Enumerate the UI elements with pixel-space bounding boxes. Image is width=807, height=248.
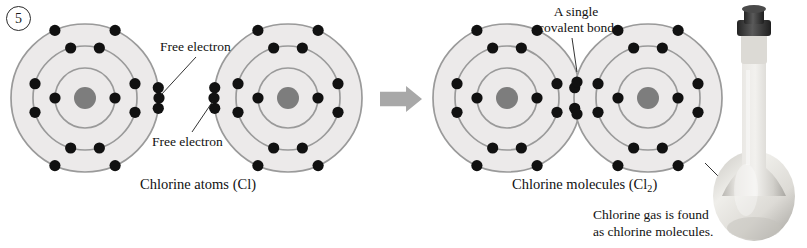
electron-dot-15	[153, 82, 164, 93]
caption-chlorine-molecules: Chlorine molecules (Cl2)	[512, 176, 657, 195]
electron-dot-13	[471, 160, 482, 171]
electron-dot-4	[487, 42, 498, 53]
electron-dot-2	[471, 92, 482, 103]
leader-free-electron-bottom	[192, 101, 213, 132]
electron-dot-3	[516, 42, 527, 53]
electron-dot-10	[551, 107, 562, 118]
electron-dot-5	[65, 142, 76, 153]
label-covalent-bond-line2: covalent bond	[538, 20, 614, 36]
electron-dot-13	[673, 160, 684, 171]
bonding-electron-1	[571, 76, 582, 87]
electron-dot-7	[332, 78, 343, 89]
electron-dot-4	[65, 42, 76, 53]
electron-dot-9	[232, 107, 243, 118]
electron-dot-13	[313, 160, 324, 171]
nucleus	[496, 87, 518, 109]
electron-dot-2	[612, 92, 623, 103]
electron-dot-16	[153, 103, 164, 114]
label-flask-note: Chlorine gas is found as chlorine molecu…	[593, 206, 713, 241]
electron-dot-14	[532, 160, 543, 171]
electron-dot-15	[209, 82, 220, 93]
electron-dot-12	[673, 25, 684, 36]
label-free-electron-top: Free electron	[160, 39, 231, 55]
caption-chlorine-atoms: Chlorine atoms (Cl)	[140, 176, 256, 193]
electron-dot-8	[451, 78, 462, 89]
electron-dot-17	[208, 92, 219, 103]
chlorine-atom-left	[11, 24, 165, 172]
electron-dot-14	[252, 160, 263, 171]
figure-canvas: 5 Free electron Free electron A single c…	[0, 0, 807, 248]
label-flask-note-line1: Chlorine gas is found	[593, 206, 713, 223]
chlorine-atom-right	[208, 24, 362, 172]
electron-dot-4	[268, 42, 279, 53]
label-covalent-bond-line1: A single	[538, 4, 614, 20]
electron-dot-8	[232, 78, 243, 89]
label-covalent-bond: A single covalent bond	[538, 4, 614, 36]
electron-dot-6	[297, 142, 308, 153]
electron-dot-3	[94, 42, 105, 53]
molecule-atom-left	[433, 24, 586, 172]
electron-dot-3	[297, 42, 308, 53]
electron-dot-1	[531, 92, 542, 103]
electron-dot-9	[29, 107, 40, 118]
arrow-shape	[380, 86, 422, 112]
electron-dot-7	[129, 78, 140, 89]
electron-dot-13	[49, 160, 60, 171]
electron-dot-12	[471, 25, 482, 36]
electron-dot-8	[592, 78, 603, 89]
electron-dot-14	[110, 160, 121, 171]
electron-dot-9	[451, 107, 462, 118]
molecule-layer	[433, 24, 722, 172]
electron-dot-6	[516, 142, 527, 153]
leader-free-electron-top	[161, 57, 196, 95]
electron-dot-3	[657, 42, 668, 53]
electron-dot-5	[487, 142, 498, 153]
electron-dot-10	[332, 107, 343, 118]
electron-dot-6	[94, 142, 105, 153]
nucleus	[74, 87, 96, 109]
electron-dot-11	[252, 25, 263, 36]
electron-dot-1	[312, 92, 323, 103]
electron-dot-6	[657, 142, 668, 153]
volumetric-flask-image	[700, 0, 807, 248]
nucleus	[637, 87, 659, 109]
electron-dot-2	[49, 92, 60, 103]
electron-dot-10	[129, 107, 140, 118]
electron-dot-5	[628, 142, 639, 153]
electron-dot-12	[313, 25, 324, 36]
electron-dot-2	[252, 92, 263, 103]
electron-dot-5	[268, 142, 279, 153]
electron-dot-14	[612, 160, 623, 171]
electron-dot-11	[110, 25, 121, 36]
electron-dot-9	[592, 107, 603, 118]
bonding-electron-2	[571, 108, 582, 119]
electron-dot-4	[628, 42, 639, 53]
electron-dot-12	[49, 25, 60, 36]
electron-dot-7	[551, 78, 562, 89]
reaction-arrow	[380, 86, 422, 112]
label-free-electron-bottom: Free electron	[152, 134, 223, 150]
electron-dot-1	[109, 92, 120, 103]
label-flask-note-line2: as chlorine molecules.	[593, 223, 713, 240]
electron-dot-1	[672, 92, 683, 103]
nucleus	[277, 87, 299, 109]
electron-dot-8	[29, 78, 40, 89]
electron-dot-17	[153, 92, 164, 103]
caption-molecules-main: Chlorine molecules (Cl	[512, 176, 647, 192]
caption-molecules-close: )	[652, 176, 657, 192]
